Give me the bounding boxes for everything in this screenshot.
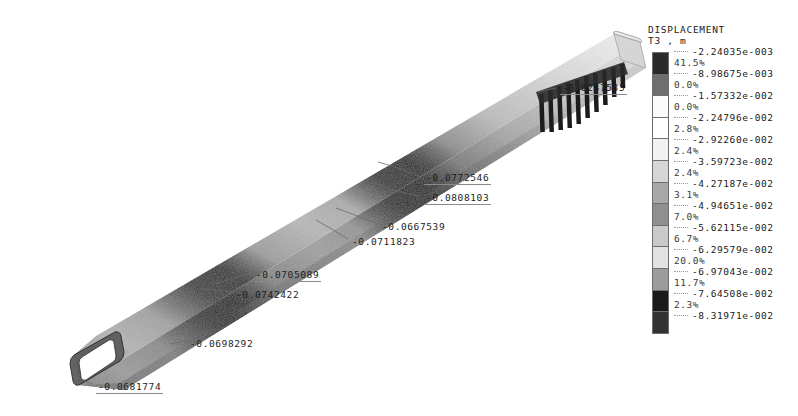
legend-value-text: -1.57332e-002 — [692, 90, 774, 101]
legend-tick-icon — [674, 139, 688, 140]
legend-percent-2: 0.0% — [674, 101, 794, 112]
legend-rows: -2.24035e-00341.5%-8.98675e-0030.0%-1.57… — [674, 46, 794, 321]
legend-title-variable: DISPLACEMENT — [648, 24, 794, 35]
legend-value-7: -4.94651e-002 — [674, 200, 794, 211]
legend-swatch-2[interactable] — [653, 96, 668, 118]
legend-title-component: T3 , m — [648, 35, 794, 46]
fea-viewport[interactable]: -0.0287535 -0.0772546 -0.0808103 -0.0667… — [0, 0, 798, 416]
legend-value-1: -8.98675e-003 — [674, 68, 794, 79]
legend-tick-icon — [674, 73, 688, 74]
legend-value-11: -7.64508e-002 — [674, 288, 794, 299]
legend-value-5: -3.59723e-002 — [674, 156, 794, 167]
beam-top-face — [74, 34, 640, 361]
annotation-node-mid-upper-a[interactable]: -0.0772546 — [424, 172, 491, 185]
legend-percent-9: 20.0% — [674, 255, 794, 266]
contour-legend[interactable]: DISPLACEMENT T3 , m -2.24035e-00341.5%-8… — [648, 24, 794, 334]
legend-value-10: -6.97043e-002 — [674, 266, 794, 277]
legend-tick-icon — [674, 117, 688, 118]
legend-percent-6: 3.1% — [674, 189, 794, 200]
legend-value-text: -4.94651e-002 — [692, 200, 774, 211]
annotation-node-mid-lower-a[interactable]: -0.0667539 — [382, 221, 445, 232]
legend-swatch-10[interactable] — [653, 269, 668, 291]
legend-tick-icon — [674, 227, 688, 228]
legend-tick-icon — [674, 51, 688, 52]
legend-value-text: -2.24035e-003 — [692, 46, 774, 57]
legend-color-bar[interactable] — [652, 52, 669, 334]
legend-percent-3: 2.8% — [674, 123, 794, 134]
legend-value-text: -2.92260e-002 — [692, 134, 774, 145]
legend-value-text: -6.97043e-002 — [692, 266, 774, 277]
legend-value-text: -5.62115e-002 — [692, 222, 774, 233]
legend-value-text: -8.98675e-003 — [692, 68, 774, 79]
legend-value-text: -4.27187e-002 — [692, 178, 774, 189]
legend-percent-7: 7.0% — [674, 211, 794, 222]
legend-percent-5: 2.4% — [674, 167, 794, 178]
legend-tick-icon — [674, 271, 688, 272]
legend-swatch-3[interactable] — [653, 118, 668, 140]
legend-tick-icon — [674, 315, 688, 316]
legend-tick-icon — [674, 183, 688, 184]
legend-swatch-11[interactable] — [653, 291, 668, 313]
annotation-node-mid-upper-b[interactable]: -0.0808103 — [424, 192, 491, 205]
legend-value-text: -7.64508e-002 — [692, 288, 774, 299]
legend-swatch-0[interactable] — [653, 53, 668, 75]
annotation-node-beam-mid[interactable]: -0.0698292 — [190, 338, 253, 349]
legend-value-text: -6.29579e-002 — [692, 244, 774, 255]
annotation-node-tip-left[interactable]: -0.0681774 — [96, 381, 163, 394]
legend-swatch-5[interactable] — [653, 161, 668, 183]
legend-percent-11: 2.3% — [674, 299, 794, 310]
annotation-node-left-lower[interactable]: -0.0742422 — [236, 289, 299, 300]
legend-value-text: -8.31971e-002 — [692, 310, 774, 321]
annotation-node-left-upper[interactable]: -0.0705089 — [254, 269, 321, 282]
legend-percent-1: 0.0% — [674, 79, 794, 90]
legend-tick-icon — [674, 95, 688, 96]
legend-swatch-9[interactable] — [653, 247, 668, 269]
legend-swatch-12[interactable] — [653, 312, 668, 333]
legend-swatch-1[interactable] — [653, 75, 668, 97]
legend-swatch-4[interactable] — [653, 139, 668, 161]
legend-value-8: -5.62115e-002 — [674, 222, 794, 233]
legend-value-3: -2.24796e-002 — [674, 112, 794, 123]
legend-percent-10: 11.7% — [674, 277, 794, 288]
legend-value-text: -3.59723e-002 — [692, 156, 774, 167]
legend-percent-8: 6.7% — [674, 233, 794, 244]
annotation-node-tip-right[interactable]: -0.0287535 — [560, 82, 627, 95]
legend-value-4: -2.92260e-002 — [674, 134, 794, 145]
legend-swatch-6[interactable] — [653, 183, 668, 205]
legend-value-2: -1.57332e-002 — [674, 90, 794, 101]
legend-value-0: -2.24035e-003 — [674, 46, 794, 57]
legend-swatch-8[interactable] — [653, 226, 668, 248]
legend-value-9: -6.29579e-002 — [674, 244, 794, 255]
legend-tick-icon — [674, 205, 688, 206]
legend-tick-icon — [674, 249, 688, 250]
annotation-node-mid-lower-b[interactable]: -0.0711823 — [352, 236, 415, 247]
legend-percent-0: 41.5% — [674, 57, 794, 68]
legend-value-12: -8.31971e-002 — [674, 310, 794, 321]
legend-tick-icon — [674, 293, 688, 294]
legend-swatch-7[interactable] — [653, 204, 668, 226]
legend-percent-4: 2.4% — [674, 145, 794, 156]
legend-tick-icon — [674, 161, 688, 162]
legend-value-text: -2.24796e-002 — [692, 112, 774, 123]
legend-value-6: -4.27187e-002 — [674, 178, 794, 189]
